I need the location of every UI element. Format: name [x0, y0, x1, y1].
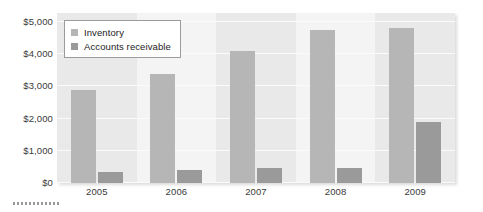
- bar-chart-figure: $5,000$4,000$3,000$2,000$1,000$0 Invento…: [0, 0, 483, 212]
- y-tick-label: $5,000: [3, 17, 53, 27]
- legend-entry: Accounts receivable: [71, 39, 171, 53]
- bar-inventory-2008: [310, 30, 335, 183]
- legend-label: Accounts receivable: [84, 41, 171, 52]
- bar-accounts-receivable-2009: [416, 122, 441, 183]
- x-tick-label-2008: 2008: [296, 186, 376, 197]
- legend-entry: Inventory: [71, 25, 171, 39]
- bar-accounts-receivable-2007: [257, 168, 282, 183]
- y-tick-label: $1,000: [3, 146, 53, 156]
- y-tick-label: $2,000: [3, 114, 53, 124]
- plot-area: InventoryAccounts receivable: [57, 13, 455, 183]
- x-tick-label-2005: 2005: [57, 186, 137, 197]
- legend-swatch-icon: [71, 29, 78, 36]
- y-tick-label: $0: [3, 178, 53, 188]
- bar-inventory-2005: [71, 90, 96, 183]
- legend-label: Inventory: [84, 27, 124, 38]
- category-band: [216, 13, 296, 183]
- x-tick-label-2006: 2006: [137, 186, 217, 197]
- bar-accounts-receivable-2006: [177, 170, 202, 183]
- bar-inventory-2007: [230, 51, 255, 183]
- y-axis: $5,000$4,000$3,000$2,000$1,000$0: [0, 0, 53, 212]
- x-axis: 20052006200720082009: [57, 186, 455, 200]
- bar-inventory-2006: [150, 74, 175, 183]
- bar-accounts-receivable-2005: [98, 172, 123, 183]
- y-tick-label: $4,000: [3, 49, 53, 59]
- x-tick-label-2007: 2007: [216, 186, 296, 197]
- category-band: [296, 13, 376, 183]
- legend-swatch-icon: [71, 43, 78, 50]
- category-band: [375, 13, 455, 183]
- bar-inventory-2009: [389, 28, 414, 183]
- chart-legend: InventoryAccounts receivable: [64, 20, 181, 58]
- y-tick-label: $3,000: [3, 81, 53, 91]
- bar-accounts-receivable-2008: [337, 168, 362, 183]
- dotted-rule-decoration: [13, 202, 61, 205]
- x-tick-label-2009: 2009: [375, 186, 455, 197]
